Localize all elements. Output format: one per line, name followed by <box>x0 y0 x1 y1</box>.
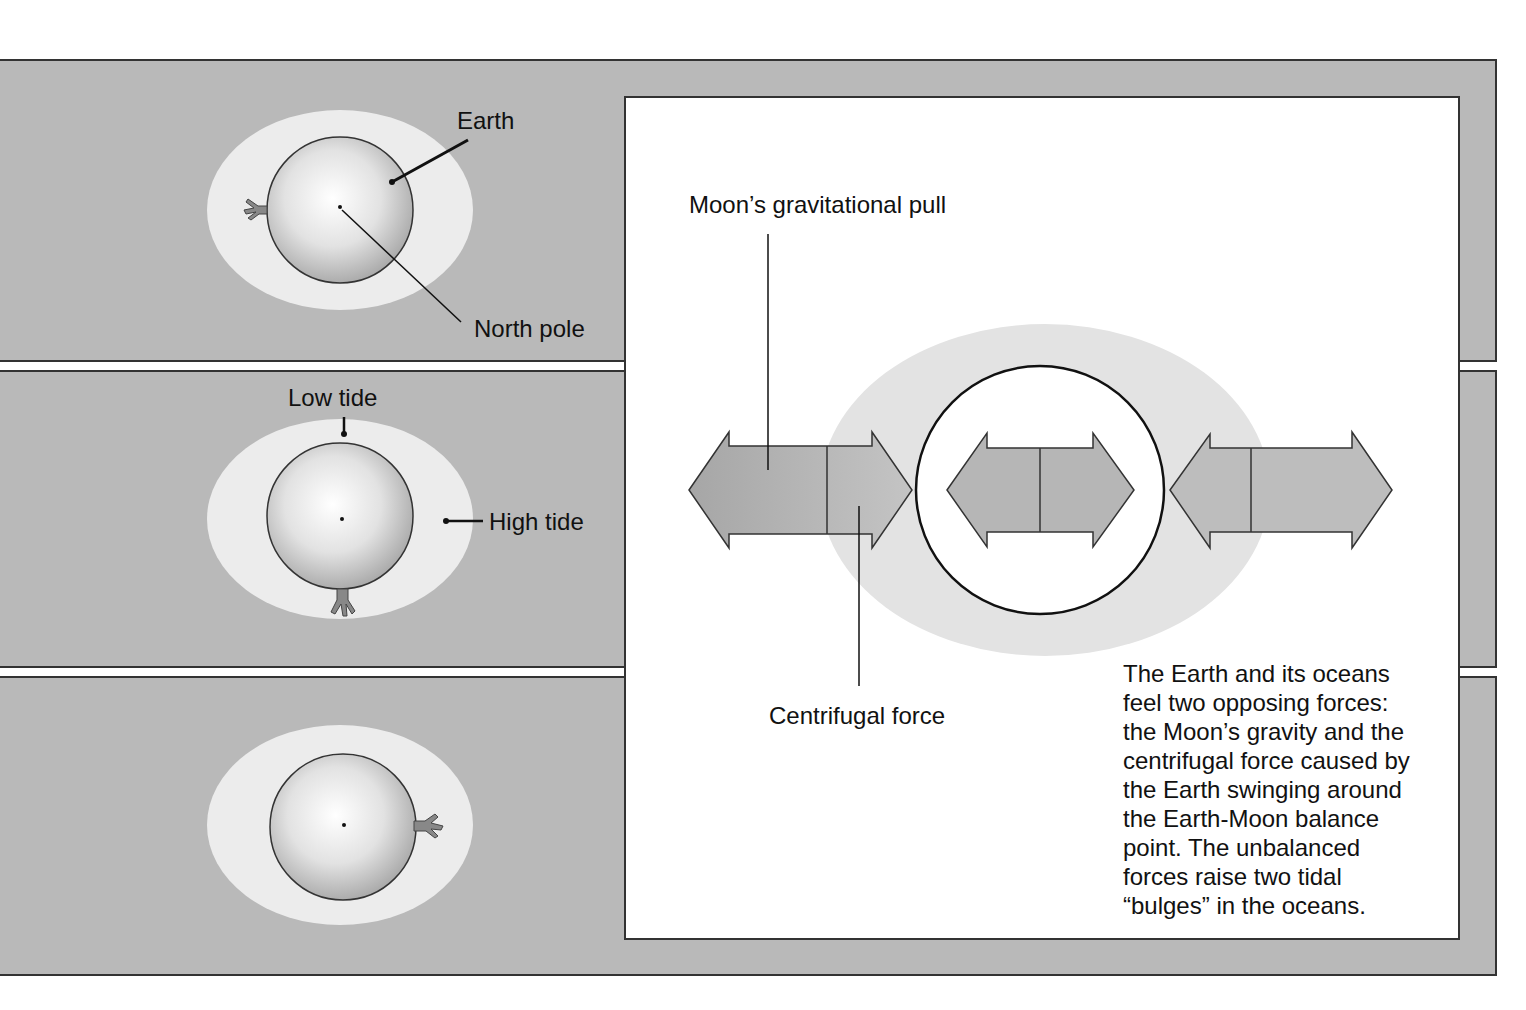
earth-panel-2 <box>207 417 483 619</box>
label-low-tide: Low tide <box>288 384 377 412</box>
description-line: “bulges” in the oceans. <box>1123 891 1453 920</box>
description-line: The Earth and its oceans <box>1123 659 1453 688</box>
tidal-bulge-diagram <box>689 234 1392 686</box>
description-line: the Earth-Moon balance <box>1123 804 1453 833</box>
label-moon-pull: Moon’s gravitational pull <box>689 191 946 219</box>
description-line: centrifugal force caused by <box>1123 746 1453 775</box>
label-centrifugal: Centrifugal force <box>769 702 945 730</box>
earth-panel-1 <box>207 110 473 322</box>
description-line: the Earth swinging around <box>1123 775 1453 804</box>
earth-panel-3 <box>207 725 473 925</box>
label-earth: Earth <box>457 107 514 135</box>
description-line: feel two opposing forces: <box>1123 688 1453 717</box>
description-line: forces raise two tidal <box>1123 862 1453 891</box>
description-line: the Moon’s gravity and the <box>1123 717 1453 746</box>
description-line: point. The unbalanced <box>1123 833 1453 862</box>
label-high-tide: High tide <box>489 508 584 536</box>
description-text: The Earth and its oceans feel two opposi… <box>1123 659 1453 920</box>
label-north-pole: North pole <box>474 315 585 343</box>
